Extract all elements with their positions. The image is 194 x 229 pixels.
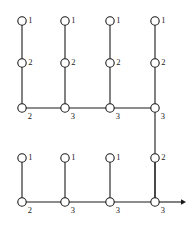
node-l2-base[interactable] [106, 198, 114, 206]
node-label-l2-base: 3 [116, 205, 120, 215]
node-u2-base[interactable] [106, 104, 114, 112]
node-u2-mid[interactable] [106, 59, 114, 67]
node-label-u3-mid: 2 [161, 57, 165, 67]
node-u1-base[interactable] [61, 104, 69, 112]
node-layer [18, 17, 159, 206]
node-l2-tip[interactable] [106, 154, 114, 162]
node-label-u1-tip: 1 [71, 15, 75, 25]
node-u3-mid[interactable] [151, 59, 159, 67]
node-u2-tip[interactable] [106, 17, 114, 25]
node-l3-mid[interactable] [151, 154, 159, 162]
continuation-arrow-head [181, 199, 186, 205]
node-label-l1-tip: 1 [71, 152, 75, 162]
label-layer: 12212312312312131323 [28, 15, 166, 214]
node-l1-base[interactable] [61, 198, 69, 206]
node-u0-tip[interactable] [18, 17, 26, 25]
node-label-l3-mid: 2 [161, 152, 165, 162]
node-label-l3-base: 3 [161, 205, 165, 215]
node-l0-tip[interactable] [18, 154, 26, 162]
node-label-l0-tip: 1 [28, 152, 32, 162]
node-label-u2-base: 3 [116, 111, 120, 121]
node-label-u1-mid: 2 [71, 57, 75, 67]
node-l1-tip[interactable] [61, 154, 69, 162]
node-label-l1-base: 3 [71, 205, 75, 215]
node-u1-tip[interactable] [61, 17, 69, 25]
node-label-l0-base: 2 [28, 205, 32, 215]
node-label-u3-tip: 1 [161, 15, 165, 25]
node-label-u0-tip: 1 [28, 15, 32, 25]
node-l0-base[interactable] [18, 198, 26, 206]
node-label-u2-tip: 1 [116, 15, 120, 25]
node-u0-base[interactable] [18, 104, 26, 112]
node-u0-mid[interactable] [18, 59, 26, 67]
node-u3-tip[interactable] [151, 17, 159, 25]
node-label-l2-tip: 1 [116, 152, 120, 162]
node-label-u3-base: 3 [161, 111, 165, 121]
node-u1-mid[interactable] [61, 59, 69, 67]
diagram-svg: 12212312312312131323 [0, 0, 194, 229]
node-label-u1-base: 3 [71, 111, 75, 121]
node-label-u0-base: 2 [28, 111, 32, 121]
node-u3-base[interactable] [151, 104, 159, 112]
node-l3-base[interactable] [151, 198, 159, 206]
tree-diagram-canvas: 12212312312312131323 [0, 0, 194, 229]
node-label-u0-mid: 2 [28, 57, 32, 67]
node-label-u2-mid: 2 [116, 57, 120, 67]
